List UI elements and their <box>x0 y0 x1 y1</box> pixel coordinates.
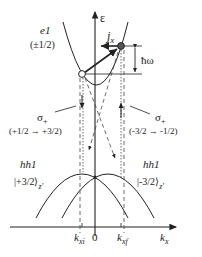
k-axis-label: kx <box>160 231 169 246</box>
right-sigma-label: σ+ <box>155 111 166 126</box>
crossing-point <box>93 175 96 178</box>
left-sigma-label: σ+ <box>37 111 48 126</box>
origin-label: 0 <box>92 231 98 243</box>
hh1-right-label: hh1 <box>143 158 160 170</box>
hh1-left-state-label: |+3/2⟩z' <box>14 176 44 191</box>
e1-spin-label: (±1/2) <box>30 39 55 51</box>
left-transition-label: (+1/2 → +3/2) <box>9 126 62 136</box>
diagonal-dashed-1 <box>85 78 115 158</box>
right-transition-label: (-3/2 → -1/2) <box>129 126 178 136</box>
current-label: jx <box>105 29 114 45</box>
energy-axis-label: ε <box>100 11 105 25</box>
hh1-right-state-label: |-3/2⟩z' <box>137 176 164 191</box>
e1-label: e1 <box>40 24 50 36</box>
left-sigma-pointer <box>55 106 76 112</box>
hh1-left-label: hh1 <box>20 158 37 170</box>
kxi-label: kxi <box>74 231 85 246</box>
hbar-omega-label: ħω <box>141 54 154 66</box>
band-diagram: ε e1 (±1/2) jx ħω σ+ (+1/2 → +3/2) σ+ (-… <box>0 0 202 257</box>
initial-state-circle <box>79 71 86 78</box>
right-sigma-pointer <box>130 106 150 114</box>
final-state-circle <box>118 43 125 50</box>
kxf-label: kxf <box>117 231 129 246</box>
hh1-left-band-curve <box>36 174 128 218</box>
diagram-canvas: ε e1 (±1/2) jx ħω σ+ (+1/2 → +3/2) σ+ (-… <box>0 0 202 257</box>
